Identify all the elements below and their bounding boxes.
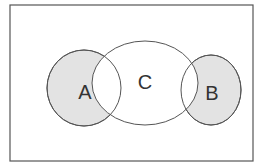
set-c-label: C	[138, 71, 152, 93]
set-a-label: A	[78, 81, 92, 103]
set-b-label: B	[205, 82, 218, 104]
venn-diagram: A B C	[0, 0, 259, 166]
